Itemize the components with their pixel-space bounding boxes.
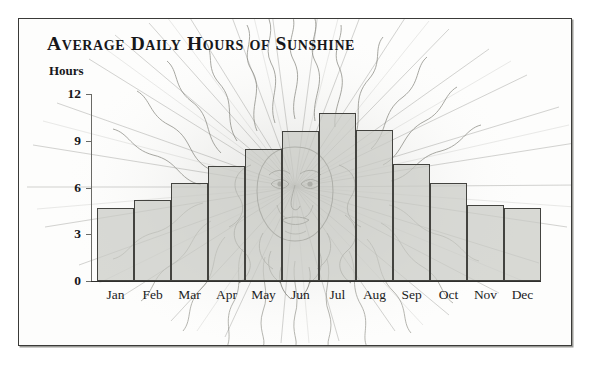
x-tick-label-mar: Mar: [171, 287, 208, 303]
x-axis-line: [91, 281, 541, 282]
y-tick-label: 3: [57, 226, 81, 242]
bar-jul: [319, 113, 356, 281]
bar-dec: [504, 208, 541, 281]
bar-aug: [356, 130, 393, 281]
x-tick-label-jun: Jun: [282, 287, 319, 303]
bar-feb: [134, 200, 171, 281]
x-tick-label-oct: Oct: [430, 287, 467, 303]
bar-jan: [97, 208, 134, 281]
bar-sep: [393, 164, 430, 281]
y-tick-mark: [86, 94, 91, 95]
y-tick-mark: [86, 188, 91, 189]
y-tick-mark: [86, 141, 91, 142]
y-tick-mark: [86, 281, 91, 282]
x-tick-label-feb: Feb: [134, 287, 171, 303]
x-tick-label-may: May: [245, 287, 282, 303]
y-tick-label: 9: [57, 133, 81, 149]
y-tick-label: 0: [57, 273, 81, 289]
x-tick-label-nov: Nov: [467, 287, 504, 303]
bar-may: [245, 149, 282, 281]
y-tick-label: 12: [57, 86, 81, 102]
chart-figure: Average Daily Hours of Sunshine Hours 03…: [0, 0, 591, 365]
x-tick-label-apr: Apr: [208, 287, 245, 303]
bar-jun: [282, 131, 319, 281]
bar-apr: [208, 166, 245, 281]
x-tick-label-dec: Dec: [504, 287, 541, 303]
x-tick-label-jan: Jan: [97, 287, 134, 303]
chart-frame: Average Daily Hours of Sunshine Hours 03…: [18, 18, 572, 346]
bar-mar: [171, 183, 208, 281]
plot-area: 036912 JanFebMarAprMayJunJulAugSepOctNov…: [19, 19, 572, 346]
bar-nov: [467, 205, 504, 281]
x-tick-label-sep: Sep: [393, 287, 430, 303]
y-axis-line: [91, 94, 92, 281]
bar-oct: [430, 183, 467, 281]
y-tick-label: 6: [57, 180, 81, 196]
x-tick-label-jul: Jul: [319, 287, 356, 303]
y-tick-mark: [86, 234, 91, 235]
x-tick-label-aug: Aug: [356, 287, 393, 303]
